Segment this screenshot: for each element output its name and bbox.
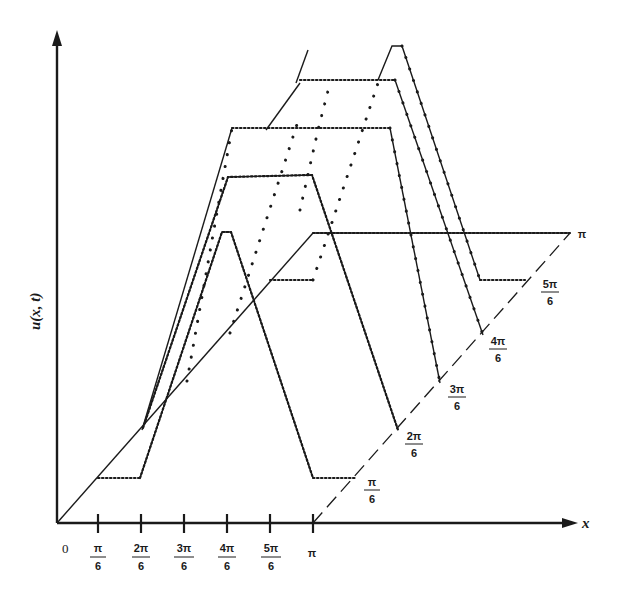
- origin-label: 0: [62, 541, 69, 556]
- x-tick-den: 6: [138, 560, 144, 572]
- t-label-den: 6: [369, 493, 375, 505]
- t-axis-origin-line: [57, 233, 313, 523]
- curve-right-edge: [390, 128, 440, 383]
- curve-left-edge: [296, 50, 308, 83]
- t-label-num: π: [368, 476, 377, 488]
- t-label-den: 6: [547, 295, 553, 307]
- y-axis-label: u(x, t): [27, 292, 44, 330]
- waterfall-diagram: 0 x u(x, t) π 6 2π 6 3π 6 4π 6 5π 6 π π …: [0, 0, 617, 601]
- curve-left-dots: [313, 83, 378, 280]
- curve-trapezoid-dots: [143, 175, 398, 430]
- curve-t-4pi-6: [230, 50, 483, 335]
- t-label-num: 3π: [450, 383, 465, 395]
- t-label-den: 6: [495, 352, 501, 364]
- curve-triangle-dots: [140, 232, 313, 478]
- curve-left-rise: [266, 83, 300, 130]
- x-tick-num: 2π: [134, 542, 149, 554]
- t-label-den: 6: [454, 400, 460, 412]
- x-axis-arrow-icon: [562, 518, 578, 528]
- x-tick-labels: π 6 2π 6 3π 6 4π 6 5π 6 π: [90, 542, 317, 572]
- x-tick-num: π: [308, 547, 317, 559]
- t-labels: π 6 2π 6 3π 6 4π 6 5π 6 π: [364, 228, 587, 505]
- x-tick-den: 6: [224, 560, 230, 572]
- y-axis-arrow-icon: [52, 30, 62, 46]
- x-tick-num: π: [94, 542, 103, 554]
- t-label-num: 4π: [491, 335, 506, 347]
- x-tick-num: 5π: [264, 542, 279, 554]
- t-label-num: 2π: [407, 430, 422, 442]
- t-axis-pi-line: [313, 233, 570, 523]
- curve-trapezoid: [143, 175, 398, 430]
- t-label-num: π: [578, 228, 587, 240]
- curve-triangle: [140, 232, 313, 478]
- t-label-den: 6: [411, 447, 417, 459]
- curve-left-dots: [230, 115, 300, 333]
- curve-left-edge: [142, 128, 232, 430]
- x-tick-num: 3π: [177, 542, 192, 554]
- x-axis-label: x: [581, 515, 590, 531]
- t-label-num: 5π: [543, 278, 558, 290]
- x-tick-num: 4π: [220, 542, 235, 554]
- curve-t-2pi-6: [143, 175, 398, 430]
- x-tick-den: 6: [181, 560, 187, 572]
- curve-left-dots: [300, 83, 330, 210]
- curve-t-pi: [300, 83, 570, 233]
- x-tick-den: 6: [95, 560, 101, 572]
- x-tick-den: 6: [268, 560, 274, 572]
